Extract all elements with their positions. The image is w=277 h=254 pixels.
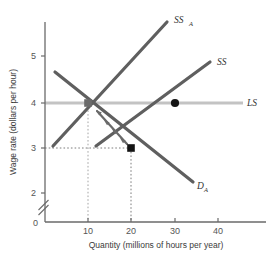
x-tick-label-10: 10: [83, 226, 93, 236]
y-tick-label-0: 0: [33, 218, 38, 228]
y-tick-label-2: 2: [31, 188, 36, 198]
curve-label-d-a-text: D: [196, 181, 204, 191]
y-tick-label-4: 4: [31, 98, 36, 108]
axis-break-icon: [39, 200, 49, 215]
chart-canvas: 5 4 3 2 0 10 20 30 40 Quantity (millions…: [0, 0, 277, 254]
x-axis-title: Quantity (millions of hours per year): [89, 240, 224, 250]
x-tick-label-40: 40: [213, 226, 223, 236]
curve-label-ss-a-text: SS: [174, 15, 184, 25]
curve-label-ss: SS: [217, 57, 227, 67]
marker-equilibrium-a: [84, 99, 92, 107]
marker-equilibrium-b: [127, 144, 135, 152]
y-tick-label-5: 5: [31, 51, 36, 61]
marker-equilibrium-c: [171, 99, 179, 107]
y-tick-label-3: 3: [31, 143, 36, 153]
chart-figure: 5 4 3 2 0 10 20 30 40 Quantity (millions…: [0, 0, 277, 254]
x-tick-label-30: 30: [170, 226, 180, 236]
curve-label-ss-a-sub: A: [188, 20, 193, 27]
x-tick-label-20: 20: [126, 226, 136, 236]
y-axis-title: Wage rate (dollars per hour): [8, 69, 18, 175]
curve-label-ls: LS: [246, 98, 257, 108]
curve-label-d-a: D A: [196, 181, 208, 193]
curve-label-d-a-sub: A: [203, 186, 208, 193]
curve-label-ss-a: SS A: [174, 15, 193, 27]
